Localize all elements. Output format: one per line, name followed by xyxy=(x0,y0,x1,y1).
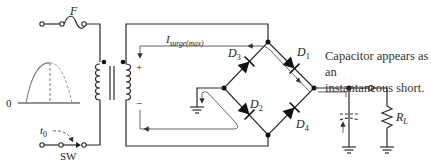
load-label: RL xyxy=(395,110,408,126)
plus-sign: + xyxy=(136,61,142,73)
input-terminal-bottom xyxy=(40,143,44,147)
surge-current-label: Isurge(max) xyxy=(165,33,204,48)
ground-icon-bridge xyxy=(190,107,204,113)
capacitor-caption: Capacitor appears as an instantaneous sh… xyxy=(325,48,431,96)
waveform-solid xyxy=(26,63,50,103)
d3-label: D3 xyxy=(227,46,241,62)
ground-icon-load xyxy=(380,147,394,153)
secondary-winding xyxy=(126,62,131,104)
capacitor-shorted xyxy=(340,88,358,147)
waveform-dashed xyxy=(50,63,72,103)
minus-sign: − xyxy=(136,97,142,109)
fuse-label: F xyxy=(69,4,78,18)
caption-line-1: Capacitor appears as an xyxy=(325,48,431,80)
primary-winding xyxy=(96,64,101,104)
d1-label: D1 xyxy=(296,45,310,61)
caption-line-2: instantaneous short. xyxy=(325,80,431,96)
switch-time-label: t0 xyxy=(40,124,47,139)
waveform-inset: 0 xyxy=(6,63,80,109)
input-terminal-top xyxy=(40,22,44,26)
switch-branch: t0 SW xyxy=(40,104,100,162)
bridge-ground-wire xyxy=(197,88,224,107)
zero-label: 0 xyxy=(6,97,12,109)
transformer: + − xyxy=(96,60,143,109)
switch-label: SW xyxy=(60,150,77,162)
ground-icon-capacitor xyxy=(342,147,356,153)
switch-close-arrow xyxy=(53,131,72,140)
d2-label: D2 xyxy=(249,97,263,113)
fuse-branch: F xyxy=(40,4,100,62)
load-resistor: RL xyxy=(382,106,408,147)
d4-label: D4 xyxy=(295,117,309,133)
surge-current-path: Isurge(max) xyxy=(140,33,346,129)
